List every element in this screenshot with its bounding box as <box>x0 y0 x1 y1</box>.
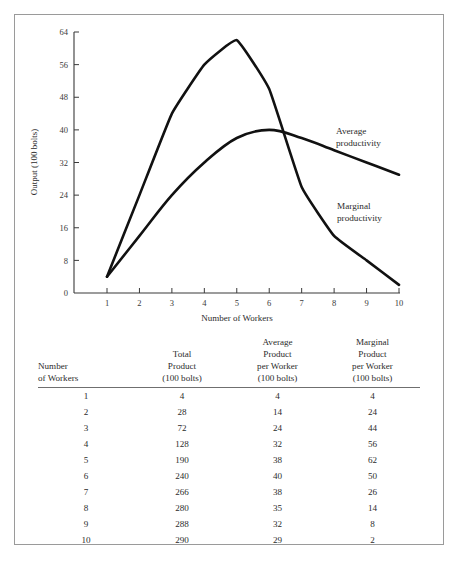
x-tick-label-5: 5 <box>235 298 239 308</box>
cell-marginal-product: 62 <box>325 452 420 468</box>
header-line: Average <box>230 336 325 348</box>
productivity-chart: 0816243240485664 12345678910 Output (100… <box>0 0 459 335</box>
y-tick-label-32: 32 <box>60 158 69 168</box>
cell-workers: 7 <box>38 485 134 501</box>
cell-total-product: 288 <box>134 517 230 533</box>
axis-tick-marks <box>74 32 399 293</box>
cell-total-product: 240 <box>134 468 230 484</box>
cell-workers: 10 <box>38 533 134 549</box>
table-row: 62404050 <box>38 468 420 484</box>
cell-average-product: 24 <box>230 420 325 436</box>
header-line: (100 bolts) <box>134 372 230 384</box>
table-row: 2281424 <box>38 404 420 420</box>
cell-total-product: 266 <box>134 485 230 501</box>
cell-average-product: 14 <box>230 404 325 420</box>
cell-total-product: 280 <box>134 501 230 517</box>
cell-workers: 4 <box>38 436 134 452</box>
y-tick-label-8: 8 <box>64 256 68 266</box>
cell-marginal-product: 4 <box>325 388 420 405</box>
cell-marginal-product: 8 <box>325 517 420 533</box>
header-line: per Worker <box>230 360 325 372</box>
cell-total-product: 128 <box>134 436 230 452</box>
cell-average-product: 32 <box>230 517 325 533</box>
table-row: 9288328 <box>38 517 420 533</box>
header-marginal-product: MarginalProductper Worker(100 bolts) <box>325 336 420 388</box>
header-line: Number <box>38 360 134 372</box>
header-number-of-workers: Numberof Workers <box>38 336 134 388</box>
cell-marginal-product: 56 <box>325 436 420 452</box>
header-total-product: TotalProduct(100 bolts) <box>134 336 230 388</box>
cell-total-product: 72 <box>134 420 230 436</box>
cell-workers: 1 <box>38 388 134 405</box>
cell-average-product: 29 <box>230 533 325 549</box>
header-line: Total <box>134 348 230 360</box>
figure-page: 0816243240485664 12345678910 Output (100… <box>0 0 459 561</box>
cell-marginal-product: 26 <box>325 485 420 501</box>
header-line: Marginal <box>325 336 420 348</box>
x-tick-label-6: 6 <box>267 298 271 308</box>
x-tick-label-2: 2 <box>137 298 141 308</box>
table-row: 1444 <box>38 388 420 405</box>
x-tick-label-4: 4 <box>202 298 207 308</box>
marginal-productivity-label-line2: productivity <box>337 213 382 223</box>
cell-average-product: 35 <box>230 501 325 517</box>
y-tick-label-56: 56 <box>60 60 69 70</box>
cell-marginal-product: 44 <box>325 420 420 436</box>
x-axis-tick-labels: 12345678910 <box>105 298 403 308</box>
cell-total-product: 4 <box>134 388 230 405</box>
cell-workers: 2 <box>38 404 134 420</box>
marginal-productivity-label-line1: Marginal <box>337 201 371 211</box>
productivity-table: Numberof Workers TotalProduct(100 bolts)… <box>38 336 420 549</box>
header-average-product: AverageProductper Worker(100 bolts) <box>230 336 325 388</box>
table-row: 3722444 <box>38 420 420 436</box>
table-head: Numberof Workers TotalProduct(100 bolts)… <box>38 336 420 388</box>
cell-workers: 9 <box>38 517 134 533</box>
cell-marginal-product: 50 <box>325 468 420 484</box>
table-row: 51903862 <box>38 452 420 468</box>
chart-canvas: 0816243240485664 12345678910 Output (100… <box>0 0 459 335</box>
table-row: 72663826 <box>38 485 420 501</box>
cell-workers: 6 <box>38 468 134 484</box>
cell-total-product: 290 <box>134 533 230 549</box>
x-tick-label-8: 8 <box>332 298 336 308</box>
x-axis-title: Number of Workers <box>201 313 273 323</box>
cell-average-product: 38 <box>230 452 325 468</box>
cell-total-product: 190 <box>134 452 230 468</box>
header-line: of Workers <box>38 372 134 384</box>
header-line: (100 bolts) <box>230 372 325 384</box>
y-tick-label-40: 40 <box>60 125 69 135</box>
y-tick-label-64: 64 <box>60 27 69 37</box>
cell-workers: 5 <box>38 452 134 468</box>
cell-average-product: 40 <box>230 468 325 484</box>
header-line: Product <box>325 348 420 360</box>
x-tick-label-1: 1 <box>105 298 109 308</box>
cell-workers: 8 <box>38 501 134 517</box>
cell-total-product: 28 <box>134 404 230 420</box>
average-productivity-label-line1: Average <box>336 126 366 136</box>
cell-marginal-product: 2 <box>325 533 420 549</box>
cell-marginal-product: 14 <box>325 501 420 517</box>
table-row: 82803514 <box>38 501 420 517</box>
header-line: Product <box>134 360 230 372</box>
cell-average-product: 32 <box>230 436 325 452</box>
y-axis-tick-labels: 0816243240485664 <box>60 27 69 298</box>
x-tick-label-10: 10 <box>395 298 404 308</box>
header-line: (100 bolts) <box>325 372 420 384</box>
table-header-row: Numberof Workers TotalProduct(100 bolts)… <box>38 336 420 388</box>
average-productivity-label-line2: productivity <box>336 138 381 148</box>
y-tick-label-48: 48 <box>60 92 69 102</box>
cell-average-product: 4 <box>230 388 325 405</box>
header-line: per Worker <box>325 360 420 372</box>
x-tick-label-3: 3 <box>170 298 174 308</box>
cell-workers: 3 <box>38 420 134 436</box>
y-tick-label-0: 0 <box>64 288 68 298</box>
x-tick-label-7: 7 <box>300 298 304 308</box>
table-row: 10290292 <box>38 533 420 549</box>
marginal-productivity-curve <box>107 40 399 285</box>
table-row: 41283256 <box>38 436 420 452</box>
table-body: 1444228142437224444128325651903862624040… <box>38 388 420 549</box>
y-tick-label-24: 24 <box>60 190 69 200</box>
productivity-table-area: Numberof Workers TotalProduct(100 bolts)… <box>14 336 444 541</box>
y-tick-label-16: 16 <box>60 223 69 233</box>
header-line: Product <box>230 348 325 360</box>
